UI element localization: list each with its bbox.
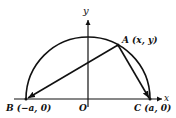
point-c-dot xyxy=(149,98,152,101)
point-b-label: B (−a, 0) xyxy=(5,103,51,114)
point-c-label: C (a, 0) xyxy=(134,103,171,114)
point-a-label: A (x, y) xyxy=(121,35,158,46)
origin-label: O xyxy=(79,103,87,113)
point-a-dot xyxy=(117,44,120,47)
semicircle-diagram: y x O A (x, y) B (−a, 0) C (a, 0) xyxy=(0,0,176,118)
x-axis-label: x xyxy=(164,93,169,103)
segment-ab xyxy=(28,45,118,98)
y-axis-label: y xyxy=(82,5,89,16)
point-b-dot xyxy=(25,98,28,101)
